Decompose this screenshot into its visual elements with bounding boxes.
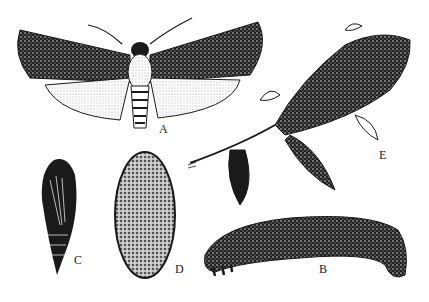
label-host-plant: E bbox=[379, 148, 386, 163]
larva-drawing bbox=[204, 217, 406, 278]
label-larva: B bbox=[319, 262, 327, 277]
illustration-canvas bbox=[0, 0, 429, 302]
label-pupa: C bbox=[74, 253, 82, 268]
label-adult: A bbox=[159, 122, 168, 137]
adult-moth-drawing bbox=[18, 18, 263, 128]
pupa-drawing bbox=[42, 159, 77, 275]
label-cocoon: D bbox=[175, 262, 184, 277]
cocoon-drawing bbox=[115, 152, 175, 278]
